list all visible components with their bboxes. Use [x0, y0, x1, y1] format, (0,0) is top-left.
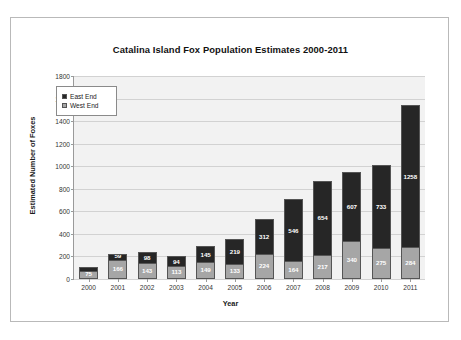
bar-segment-east-end[interactable]: 7331008 — [372, 165, 391, 248]
bar-column[interactable]: 6079473402009 — [342, 172, 361, 279]
bar-column[interactable]: 1452941492004 — [196, 246, 215, 279]
legend-item-east-end: East End — [62, 93, 112, 100]
bar-value-label-east-end: 312 — [256, 234, 273, 240]
bar-value-label-east-end: 98 — [139, 255, 156, 261]
y-axis-tick-label: 1200 — [55, 140, 70, 147]
x-axis-tick-label: 2003 — [169, 284, 184, 291]
bar-value-label-west-end: 143 — [139, 268, 156, 274]
y-axis-tick-label: 1400 — [55, 118, 70, 125]
bar-value-label-east-end: 94 — [168, 259, 185, 265]
x-axis-tick-label: 2009 — [345, 284, 360, 291]
bar-column[interactable]: 982411432002 — [138, 252, 157, 279]
bar-segment-west-end[interactable]: 113 — [167, 266, 186, 279]
y-axis-tick-label: 0 — [66, 276, 70, 283]
bar-segment-west-end[interactable]: 224 — [255, 254, 274, 279]
bar-column[interactable]: 125815422842011 — [401, 105, 420, 279]
x-axis-title: Year — [11, 299, 450, 308]
bar-segment-east-end[interactable]: 607947 — [342, 172, 361, 240]
x-axis-tick-mark — [410, 279, 411, 282]
x-axis-tick-mark — [89, 279, 90, 282]
bar-segment-west-end[interactable]: 143 — [138, 263, 157, 279]
plot-area: 020040060080010001200140016001800 281037… — [73, 76, 425, 280]
y-axis-title: Estimated Number of Foxes — [28, 96, 37, 236]
x-axis-tick-label: 2006 — [257, 284, 272, 291]
bar-value-label-west-end: 284 — [402, 260, 419, 266]
bar-value-label-west-end: 164 — [285, 267, 302, 273]
bar-column[interactable]: 3125362242006 — [255, 219, 274, 279]
bar-series-group: 2810375200059225166200198241143200294207… — [74, 76, 425, 279]
bar-value-label-east-end: 546 — [285, 228, 302, 234]
bar-segment-west-end[interactable]: 164 — [284, 261, 303, 279]
x-axis-tick-label: 2011 — [403, 284, 417, 291]
bar-value-label-west-end: 133 — [226, 268, 243, 274]
bar-value-label-east-end: 654 — [314, 215, 331, 221]
y-axis-tick-mark — [71, 279, 74, 280]
bar-segment-east-end[interactable]: 94207 — [167, 256, 186, 267]
bar-segment-west-end[interactable]: 284 — [401, 247, 420, 279]
bar-column[interactable]: 592251662001 — [108, 254, 127, 279]
x-axis-tick-label: 2008 — [315, 284, 330, 291]
bar-segment-west-end[interactable]: 275 — [372, 248, 391, 279]
x-axis-tick-mark — [118, 279, 119, 282]
x-axis-tick-label: 2001 — [111, 284, 126, 291]
bar-segment-west-end[interactable]: 149 — [196, 262, 215, 279]
legend-swatch-west-end-icon — [62, 103, 67, 108]
bar-segment-west-end[interactable]: 166 — [108, 260, 127, 279]
y-axis-tick-label: 400 — [59, 230, 70, 237]
bar-value-label-east-end: 607 — [343, 204, 360, 210]
y-axis-tick-label: 800 — [59, 185, 70, 192]
bar-value-label-west-end: 149 — [197, 267, 214, 273]
bar-segment-east-end[interactable]: 98241 — [138, 252, 157, 263]
bar-column[interactable]: 28103752000 — [79, 267, 98, 279]
bar-value-label-east-end: 1258 — [402, 174, 419, 180]
legend-swatch-east-end-icon — [62, 94, 67, 99]
y-axis-tick-label: 200 — [59, 253, 70, 260]
x-axis-tick-mark — [176, 279, 177, 282]
chart-title: Catalina Island Fox Population Estimates… — [11, 44, 450, 55]
x-axis-tick-mark — [352, 279, 353, 282]
x-axis-tick-label: 2010 — [374, 284, 389, 291]
bar-segment-east-end[interactable]: 145294 — [196, 246, 215, 262]
bar-segment-west-end[interactable]: 75 — [79, 271, 98, 279]
bar-segment-east-end[interactable]: 312536 — [255, 219, 274, 254]
x-axis-tick-label: 2000 — [81, 284, 96, 291]
y-axis-tick-label: 600 — [59, 208, 70, 215]
bar-segment-west-end[interactable]: 217 — [313, 255, 332, 279]
chart-legend: East End West End — [56, 86, 117, 116]
bar-column[interactable]: 5467101642007 — [284, 199, 303, 279]
bar-value-label-west-end: 166 — [109, 266, 126, 272]
bar-segment-west-end[interactable]: 340 — [342, 241, 361, 279]
bar-column[interactable]: 2193521332005 — [225, 239, 244, 279]
x-axis-tick-mark — [293, 279, 294, 282]
x-axis-tick-mark — [147, 279, 148, 282]
x-axis-tick-label: 2005 — [228, 284, 243, 291]
bar-column[interactable]: 6548712172008 — [313, 181, 332, 279]
chart-frame: Catalina Island Fox Population Estimates… — [10, 17, 449, 322]
bar-segment-east-end[interactable]: 654871 — [313, 181, 332, 255]
bar-column[interactable]: 942071132003 — [167, 256, 186, 279]
bar-value-label-west-end: 340 — [343, 257, 360, 263]
bar-value-label-west-end: 113 — [168, 269, 185, 275]
bar-segment-east-end[interactable]: 12581542 — [401, 105, 420, 247]
bar-value-label-west-end: 275 — [373, 260, 390, 266]
y-axis-tick-label: 1000 — [55, 163, 70, 170]
bar-segment-east-end[interactable]: 59225 — [108, 254, 127, 261]
x-axis-tick-label: 2002 — [140, 284, 155, 291]
x-axis-tick-label: 2004 — [198, 284, 213, 291]
x-axis-tick-label: 2007 — [286, 284, 301, 291]
legend-label-west-end: West End — [70, 102, 98, 109]
bar-value-label-east-end: 219 — [226, 249, 243, 255]
y-axis-tick-label: 1800 — [55, 73, 70, 80]
bar-segment-east-end[interactable]: 546710 — [284, 199, 303, 261]
legend-label-east-end: East End — [70, 93, 97, 100]
bar-value-label-west-end: 224 — [256, 263, 273, 269]
bar-value-label-west-end: 217 — [314, 264, 331, 270]
x-axis-tick-mark — [235, 279, 236, 282]
x-axis-tick-mark — [206, 279, 207, 282]
bar-column[interactable]: 73310082752010 — [372, 165, 391, 279]
bar-segment-east-end[interactable]: 219352 — [225, 239, 244, 264]
gridline: 0 — [74, 279, 425, 280]
bar-value-label-west-end: 75 — [80, 271, 97, 277]
bar-segment-west-end[interactable]: 133 — [225, 264, 244, 279]
legend-item-west-end: West End — [62, 102, 112, 109]
